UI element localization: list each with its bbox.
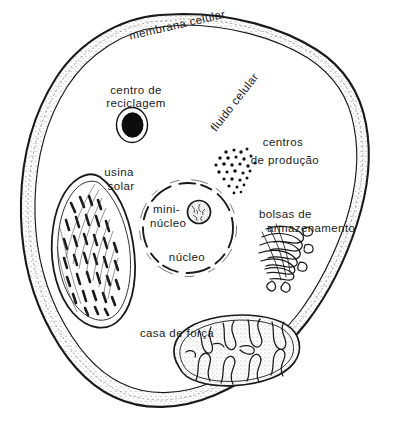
label-centro-de-reciclagem-line1: centro de <box>104 84 168 98</box>
label-centro-de-reciclagem-line2: reciclagem <box>100 97 172 111</box>
cell-diagram-svg <box>0 0 398 435</box>
lysosome-group <box>117 108 148 143</box>
label-casa-de-forca: casa de força <box>135 327 219 341</box>
cell-diagram-figure: membrana celular fluido celular centro d… <box>0 0 398 435</box>
label-bolsas-de-armazenamento-line1: bolsas de <box>259 208 323 222</box>
label-mini-nucleo-line1: mini- <box>153 203 183 217</box>
chloroplast-group <box>52 174 135 327</box>
label-usina-solar-line2: solar <box>103 180 139 194</box>
label-mini-nucleo-line2: núcleo <box>150 217 192 231</box>
label-bolsas-de-armazenamento-line2: armazenamento <box>267 222 365 236</box>
label-nucleo: núcleo <box>166 251 208 265</box>
mitochondrion-group <box>174 315 300 386</box>
label-centros-de-producao-line1: centros <box>258 136 308 150</box>
label-usina-solar-line1: usina <box>100 166 138 180</box>
lysosome-core <box>122 113 143 137</box>
mitochondrion-outer <box>174 315 300 386</box>
label-centros-de-producao-line2: de produção <box>248 154 322 168</box>
